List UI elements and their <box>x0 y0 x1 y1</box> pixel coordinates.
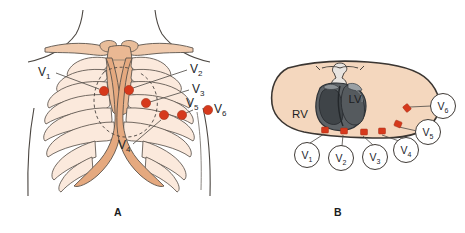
lead-circle-v4[interactable]: V4 <box>394 138 419 163</box>
electrode-b-v1[interactable] <box>322 127 329 133</box>
panel-b-letter: B <box>334 206 342 218</box>
electrode-v1[interactable] <box>99 86 108 95</box>
lead-circle-v1[interactable]: V1 <box>295 143 320 168</box>
electrode-v3[interactable] <box>141 98 150 107</box>
label-rv: RV <box>292 108 308 120</box>
ecg-lead-placement-figure: V1 V2 V3 V4 V5 V6 A <box>0 0 465 233</box>
lead-circle-v2[interactable]: V2 <box>329 146 354 171</box>
electrode-b-v3[interactable] <box>361 129 368 135</box>
electrode-b-v2[interactable] <box>341 128 348 134</box>
figure-root: V1 V2 V3 V4 V5 V6 A <box>0 0 465 233</box>
electrode-v5[interactable] <box>177 110 186 119</box>
lead-circle-v5[interactable]: V5 <box>416 120 441 145</box>
electrode-v2[interactable] <box>124 85 133 94</box>
lead-circle-v6[interactable]: V6 <box>431 94 456 119</box>
electrode-v6[interactable] <box>203 105 212 114</box>
lead-circle-v3[interactable]: V3 <box>363 145 388 170</box>
label-lv: LV <box>348 93 362 105</box>
electrode-b-v4[interactable] <box>379 128 386 134</box>
electrode-v4[interactable] <box>159 110 168 119</box>
panel-a-letter: A <box>114 206 122 218</box>
